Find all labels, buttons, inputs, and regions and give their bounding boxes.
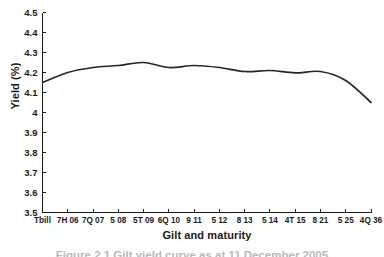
gilt-yield-curve-figure: 3.53.63.73.83.944.14.24.34.44.5 Tbill7H … bbox=[0, 0, 384, 257]
y-axis-tick-label: 4.4 bbox=[24, 27, 38, 38]
x-axis-tick-label: 8 21 bbox=[312, 216, 328, 225]
x-axis-tick-label: 5 12 bbox=[211, 216, 227, 225]
x-axis-tick-label: 9 11 bbox=[186, 216, 202, 225]
x-axis-tick-label: 7Q 07 bbox=[82, 216, 105, 225]
x-axis-tick-label: 5 25 bbox=[338, 216, 354, 225]
x-axis-tick-label: Tbill bbox=[34, 216, 51, 225]
y-axis-tick-labels: 3.53.63.73.83.944.14.24.34.44.5 bbox=[24, 7, 38, 218]
x-axis-tick-label: 5 14 bbox=[262, 216, 278, 225]
y-axis-tick-label: 3.9 bbox=[24, 127, 37, 138]
y-axis-tick-label: 4.2 bbox=[24, 67, 37, 78]
x-axis-tick-labels: Tbill7H 067Q 075 085T 096Q 109 115 128 1… bbox=[34, 216, 383, 225]
x-axis-tick-label: 7H 06 bbox=[57, 216, 79, 225]
x-axis-tick-label: 6Q 10 bbox=[158, 216, 181, 225]
y-axis-tick-label: 3.7 bbox=[24, 167, 37, 178]
y-axis-tick-label: 3.6 bbox=[24, 187, 37, 198]
y-axis-tick-label: 4 bbox=[32, 107, 38, 118]
y-axis-tick-label: 4.3 bbox=[24, 47, 37, 58]
x-axis-title: Gilt and maturity bbox=[42, 229, 372, 241]
y-axis-title: Yield (%) bbox=[9, 46, 21, 126]
yield-curve-chart: 3.53.63.73.83.944.14.24.34.44.5 Tbill7H … bbox=[0, 0, 384, 257]
figure-caption: Figure 2.1 Gilt yield curve as at 11 Dec… bbox=[0, 249, 384, 257]
x-axis-tick-marks bbox=[43, 209, 372, 213]
x-axis-tick-label: 4Q 36 bbox=[360, 216, 383, 225]
y-axis-tick-label: 3.8 bbox=[24, 147, 37, 158]
y-axis-tick-label: 4.5 bbox=[24, 7, 38, 18]
y-axis-tick-marks bbox=[43, 13, 47, 213]
x-axis-tick-label: 5 08 bbox=[110, 216, 126, 225]
x-axis-tick-label: 8 13 bbox=[237, 216, 253, 225]
x-axis-tick-label: 4T 15 bbox=[285, 216, 306, 225]
x-axis-tick-label: 5T 09 bbox=[133, 216, 154, 225]
series-line-gilt-yield bbox=[43, 62, 372, 102]
y-axis-tick-label: 4.1 bbox=[24, 87, 38, 98]
